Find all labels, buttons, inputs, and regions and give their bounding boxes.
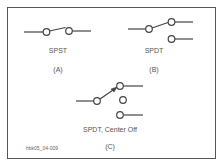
spdt-center-off-switch-symbol [76, 83, 143, 119]
panel-b-caption: (B) [149, 66, 158, 73]
spst-switch-symbol [24, 28, 91, 36]
spdt-label: SPDT [145, 47, 164, 54]
panel-a-caption: (A) [53, 66, 62, 73]
spdt-center-off-label: SPDT, Center Off [83, 126, 137, 133]
figure-id: hbk05_04-009 [26, 145, 58, 151]
panel-c-caption: (C) [105, 143, 115, 150]
switch-schematics [0, 0, 223, 166]
spdt-switch-symbol [128, 19, 193, 43]
spst-label: SPST [49, 47, 67, 54]
